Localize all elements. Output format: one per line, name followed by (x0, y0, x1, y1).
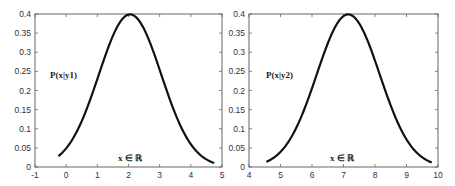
x-tick-label: 7 (341, 170, 346, 180)
y-tick-label: 0.4 (233, 9, 245, 19)
y-tick-label: 0.2 (19, 86, 31, 96)
y-tick-label: 0.15 (14, 105, 31, 115)
y-tick-label: 0.4 (19, 9, 31, 19)
y-tick-label: 0.15 (228, 105, 245, 115)
plot-left: -101234500.050.10.150.20.250.30.350.4P(x… (14, 9, 224, 180)
x-tick-label: -1 (31, 170, 39, 180)
y-tick-label: 0.35 (14, 28, 31, 38)
x-tick-label: 1 (95, 170, 100, 180)
y-tick-label: 0 (240, 162, 245, 172)
x-tick-label: 5 (220, 170, 225, 180)
x-domain-annotation: x ∈ ℝ (330, 153, 355, 163)
plot-right: 4567891000.050.10.150.20.250.30.350.4P(x… (228, 9, 443, 180)
y-tick-label: 0.25 (14, 66, 31, 76)
y-tick-label: 0.25 (228, 66, 245, 76)
x-tick-label: 0 (64, 170, 69, 180)
x-tick-label: 9 (404, 170, 409, 180)
x-tick-label: 8 (373, 170, 378, 180)
x-tick-label: 2 (126, 170, 131, 180)
x-domain-annotation: x ∈ ℝ (118, 153, 143, 163)
x-tick-label: 3 (157, 170, 162, 180)
y-tick-label: 0.2 (233, 86, 245, 96)
y-tick-label: 0 (26, 162, 31, 172)
x-tick-label: 4 (188, 170, 193, 180)
y-tick-label: 0.3 (233, 47, 245, 57)
x-tick-label: 6 (310, 170, 315, 180)
y-tick-label: 0.05 (14, 143, 31, 153)
gaussian-curve (266, 14, 431, 162)
y-tick-label: 0.1 (233, 124, 245, 134)
y-tick-label: 0.35 (228, 28, 245, 38)
x-tick-label: 5 (278, 170, 283, 180)
y-tick-label: 0.05 (228, 143, 245, 153)
density-annotation: P(x|y1) (50, 70, 77, 80)
axes-frame (35, 14, 222, 167)
x-tick-label: 10 (433, 170, 443, 180)
y-tick-label: 0.1 (19, 124, 31, 134)
y-tick-label: 0.3 (19, 47, 31, 57)
x-tick-label: 4 (247, 170, 252, 180)
gaussian-curve (58, 14, 214, 163)
chart-canvas: -101234500.050.10.150.20.250.30.350.4P(x… (0, 0, 455, 186)
density-annotation: P(x|y2) (266, 70, 293, 80)
